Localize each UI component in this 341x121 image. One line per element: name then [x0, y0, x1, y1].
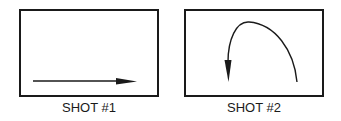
curved-arrow-icon	[225, 22, 298, 82]
shot-1-label: SHOT #1	[19, 100, 159, 115]
straight-arrow-icon	[33, 78, 137, 85]
shot-2-label: SHOT #2	[184, 100, 324, 115]
